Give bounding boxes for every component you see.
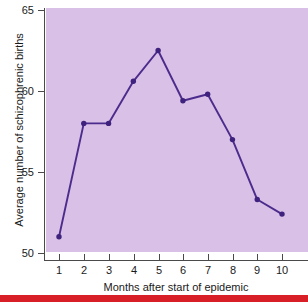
y-axis-tick [38,10,44,11]
x-axis-tick [282,254,283,260]
page-accent-rule [0,295,308,302]
x-axis-tick-label: 3 [97,265,121,276]
x-axis-tick [109,254,110,260]
x-axis-tick-label: 4 [122,265,146,276]
x-axis-tick-label: 2 [72,265,96,276]
x-axis-tick [257,254,258,260]
x-axis-tick [183,254,184,260]
y-axis-tick [38,253,44,254]
x-axis-tick-label: 1 [47,265,71,276]
x-axis-tick-label: 8 [221,265,245,276]
y-axis-title: Average number of schizophrenic births [13,5,25,255]
x-axis-tick [233,254,234,260]
y-axis-tick [38,172,44,173]
chart-figure: 65 60 55 50 1 2 3 4 5 6 7 8 9 10 Months … [0,0,308,302]
x-axis-tick [134,254,135,260]
x-axis-tick [208,254,209,260]
x-axis-tick [84,254,85,260]
plot-area-background [46,8,308,252]
x-axis-tick [59,254,60,260]
x-axis-tick-label: 6 [171,265,195,276]
x-axis-tick-label: 5 [147,265,171,276]
y-axis-tick [38,91,44,92]
y-axis-line [44,8,45,260]
x-axis-tick-label: 9 [245,265,269,276]
x-axis-tick-label: 7 [196,265,220,276]
x-axis-tick-label: 10 [270,265,294,276]
x-axis-title: Months after start of epidemic [44,281,308,293]
x-axis-tick [159,254,160,260]
x-axis-line [44,260,308,261]
